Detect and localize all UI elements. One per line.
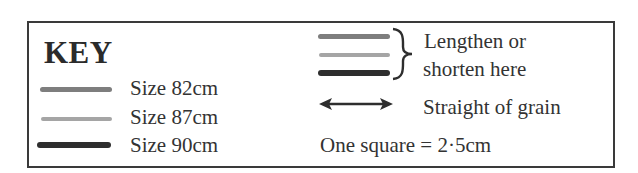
size-90-line-icon — [37, 142, 111, 148]
double-arrow-icon — [318, 96, 394, 112]
brace-icon — [390, 27, 416, 81]
lengthen-line2: shorten here — [423, 57, 526, 82]
lengthen-line-87-icon — [319, 53, 390, 57]
key-title: KEY — [44, 35, 113, 71]
size-82-label: Size 82cm — [130, 76, 218, 101]
size-82-line-icon — [40, 87, 112, 92]
lengthen-line-90-icon — [318, 70, 390, 76]
size-90-label: Size 90cm — [130, 133, 218, 158]
size-87-label: Size 87cm — [130, 105, 218, 130]
scale-label: One square = 2·5cm — [320, 133, 491, 158]
lengthen-line1: Lengthen or — [424, 29, 526, 54]
lengthen-line-82-icon — [318, 34, 390, 39]
size-87-line-icon — [41, 117, 112, 121]
grain-label: Straight of grain — [423, 95, 561, 120]
